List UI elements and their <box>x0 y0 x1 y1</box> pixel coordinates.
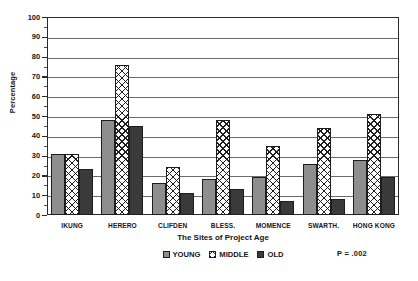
bar-old <box>129 126 143 215</box>
legend-swatch-young <box>163 251 170 258</box>
bar-group <box>349 17 399 215</box>
bar-young <box>152 183 166 215</box>
legend-label: MIDDLE <box>219 250 248 259</box>
y-tick-label: 40 <box>0 131 40 140</box>
bar-chart: Percentage 0102030405060708090100 IKUNGH… <box>0 0 418 281</box>
x-tick-label: HONG KONG <box>349 222 399 229</box>
x-axis-title: The Sites of Project Age <box>47 233 399 242</box>
legend-swatch-old <box>257 251 264 258</box>
bar-young <box>202 179 216 215</box>
legend-item-old: OLD <box>257 250 283 259</box>
bar-young <box>252 177 266 215</box>
y-tick-label: 70 <box>0 72 40 81</box>
bar-young <box>303 164 317 215</box>
y-tick-label: 90 <box>0 32 40 41</box>
bar-middle <box>266 146 280 215</box>
bar-young <box>51 154 65 215</box>
bar-old <box>331 199 345 215</box>
x-tick-label: BLESS. <box>198 222 248 229</box>
bar-group <box>298 17 348 215</box>
y-tick-label: 100 <box>0 13 40 22</box>
legend-item-young: YOUNG <box>163 250 201 259</box>
bar-group <box>248 17 298 215</box>
y-tick-label: 10 <box>0 191 40 200</box>
legend-item-middle: MIDDLE <box>209 250 248 259</box>
bar-middle <box>166 167 180 215</box>
bar-middle <box>317 128 331 215</box>
bar-old <box>280 201 294 215</box>
y-tick-label: 60 <box>0 92 40 101</box>
bar-old <box>180 193 194 215</box>
bar-groups <box>47 17 399 215</box>
legend-swatch-middle <box>209 251 216 258</box>
bar-middle <box>367 114 381 215</box>
y-tick-label: 50 <box>0 112 40 121</box>
bar-young <box>353 160 367 215</box>
y-tick-label: 0 <box>0 211 40 220</box>
bar-group <box>148 17 198 215</box>
x-tick-label: CLIFDEN <box>148 222 198 229</box>
legend-label: YOUNG <box>173 250 201 259</box>
x-tick-label: HERERO <box>97 222 147 229</box>
y-tick-mark <box>42 215 47 216</box>
x-tick-label: IKUNG <box>47 222 97 229</box>
legend-label: OLD <box>267 250 283 259</box>
y-tick-label: 20 <box>0 171 40 180</box>
bar-old <box>230 189 244 215</box>
x-tick-label: SWARTH. <box>298 222 348 229</box>
y-tick-label: 80 <box>0 52 40 61</box>
bar-old <box>79 169 93 215</box>
bar-middle <box>115 65 129 215</box>
y-tick-label: 30 <box>0 151 40 160</box>
p-value-annotation: P = .002 <box>337 249 367 258</box>
bar-middle <box>65 154 79 215</box>
bar-young <box>101 120 115 215</box>
bar-group <box>198 17 248 215</box>
bar-group <box>47 17 97 215</box>
bar-old <box>381 177 395 215</box>
bar-group <box>97 17 147 215</box>
x-tick-label: MOMENCE <box>248 222 298 229</box>
bar-middle <box>216 120 230 215</box>
